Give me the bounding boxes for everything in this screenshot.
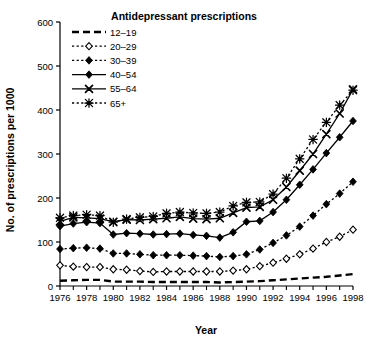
data-point: [57, 245, 64, 253]
data-point: [97, 263, 104, 270]
data-point: [296, 223, 303, 231]
data-point: [136, 213, 144, 221]
data-point: [176, 230, 183, 238]
data-point: [203, 268, 210, 275]
x-tick-label: 1986: [183, 292, 204, 303]
data-point: [163, 268, 170, 275]
antidepressant-prescriptions-line-chart: 0100200300400500600197619781980198219841…: [0, 0, 369, 343]
data-point: [202, 209, 210, 217]
y-axis-title: No. of prescriptions per 1000: [4, 87, 16, 232]
data-point: [296, 251, 303, 258]
y-tick-label: 100: [37, 237, 53, 248]
legend-item-label: 30–39: [110, 55, 136, 66]
legend-item[interactable]: 20–29: [72, 41, 136, 52]
data-point: [176, 208, 184, 216]
legend-item-label: 65+: [110, 98, 127, 109]
x-tick-label: 1976: [49, 292, 70, 303]
data-point: [269, 190, 277, 198]
legend-swatch-marker: [86, 71, 93, 79]
data-point: [122, 215, 130, 223]
legend-item[interactable]: 55–64: [72, 83, 136, 94]
legend-swatch-marker: [86, 43, 93, 50]
data-point: [335, 101, 343, 109]
series-line: [60, 90, 353, 222]
data-point: [176, 251, 183, 259]
legend-item[interactable]: 40–54: [72, 69, 136, 80]
y-tick-label: 0: [48, 281, 53, 292]
data-point: [177, 268, 184, 275]
data-point: [256, 246, 263, 254]
data-point: [150, 268, 157, 275]
x-tick-label: 1982: [129, 292, 150, 303]
data-point: [82, 211, 90, 219]
data-point: [162, 209, 170, 217]
data-point: [56, 214, 64, 222]
data-point: [323, 238, 330, 245]
chart-figure: 0100200300400500600197619781980198219841…: [0, 0, 369, 343]
legend-item-label: 55–64: [110, 83, 136, 94]
data-point: [217, 268, 224, 275]
data-point: [229, 202, 237, 210]
legend-swatch-marker: [86, 57, 93, 65]
data-point: [243, 266, 250, 273]
legend-item-label: 12–19: [110, 27, 136, 38]
legend: 12–1920–2930–3940–5455–6465+: [72, 27, 136, 109]
data-point: [243, 251, 250, 259]
data-point: [336, 233, 343, 240]
data-point: [163, 251, 170, 259]
legend-swatch-marker: [85, 99, 93, 107]
data-point: [270, 259, 277, 266]
data-point: [283, 184, 290, 191]
data-point: [296, 167, 303, 174]
x-tick-label: 1996: [316, 292, 337, 303]
y-axis-ticks: 0100200300400500600: [37, 17, 60, 292]
data-point: [283, 232, 290, 240]
x-tick-label: 1990: [236, 292, 257, 303]
data-point: [310, 245, 317, 252]
data-point: [137, 251, 144, 259]
data-point: [336, 110, 343, 117]
data-point: [137, 267, 144, 274]
x-tick-label: 1992: [263, 292, 284, 303]
x-tick-label: 1980: [103, 292, 124, 303]
data-point: [282, 174, 290, 182]
legend-item[interactable]: 12–19: [72, 27, 136, 38]
y-tick-label: 600: [37, 17, 53, 28]
data-point: [309, 135, 317, 143]
data-point: [150, 231, 157, 239]
data-point: [163, 230, 170, 238]
data-point: [190, 268, 197, 275]
x-tick-label: 1994: [289, 292, 310, 303]
y-tick-label: 400: [37, 105, 53, 116]
data-point: [350, 226, 357, 233]
data-point: [270, 239, 277, 247]
data-point: [57, 262, 64, 269]
data-point: [203, 232, 210, 240]
series-layer: [56, 86, 357, 283]
x-axis-ticks: 1976197819801982198419861988199019921994…: [49, 286, 363, 303]
data-point: [349, 86, 357, 94]
data-point: [322, 118, 330, 126]
x-tick-label: 1998: [342, 292, 363, 303]
y-tick-label: 500: [37, 61, 53, 72]
data-point: [70, 263, 77, 270]
legend-item[interactable]: 30–39: [72, 55, 136, 66]
chart-title: Antidepressant prescriptions: [111, 10, 257, 22]
data-point: [190, 252, 197, 260]
data-point: [216, 234, 223, 242]
data-point: [256, 198, 264, 206]
axes: [60, 22, 353, 286]
data-point: [230, 267, 237, 274]
data-point: [123, 266, 130, 273]
data-point: [110, 250, 117, 258]
data-point: [190, 231, 197, 239]
data-point: [123, 229, 130, 237]
legend-item[interactable]: 65+: [72, 98, 127, 109]
y-tick-label: 300: [37, 149, 53, 160]
legend-item-label: 20–29: [110, 41, 136, 52]
data-point: [296, 155, 304, 163]
legend-item-label: 40–54: [110, 69, 136, 80]
x-axis-title: Year: [195, 324, 217, 336]
data-point: [83, 244, 90, 252]
data-point: [70, 244, 77, 252]
